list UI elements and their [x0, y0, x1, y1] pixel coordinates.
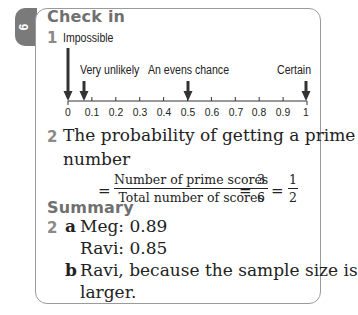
- tick-0-2: 0.2: [109, 106, 123, 118]
- ravi-result: Ravi: 0.85: [80, 238, 167, 258]
- part-b-line1: Ravi, because the sample size is: [80, 260, 358, 280]
- summary-heading: Summary: [47, 198, 134, 217]
- part-b-label: b: [65, 260, 77, 280]
- tick-0-8: 0.8: [252, 106, 266, 118]
- part-a-label: a: [65, 216, 76, 236]
- question-2-number: 2: [47, 128, 57, 146]
- tick-0-3: 0.3: [133, 106, 147, 118]
- fraction-1-over-2: 1 2: [288, 172, 298, 205]
- tick-0: 0: [65, 106, 71, 118]
- tick-0-1: 0.1: [85, 106, 99, 118]
- tick-0-6: 0.6: [205, 106, 219, 118]
- equals-sign-3: =: [271, 182, 284, 200]
- tick-0-5: 0.5: [181, 106, 195, 118]
- meg-result: Meg: 0.89: [80, 216, 167, 236]
- part-b-line2: larger.: [80, 282, 136, 302]
- tick-0-9: 0.9: [276, 106, 290, 118]
- q2-text-line2: number: [63, 149, 130, 169]
- tick-0-7: 0.7: [229, 106, 243, 118]
- summary-question-2-number: 2: [47, 219, 57, 237]
- tick-1: 1: [303, 106, 309, 118]
- equals-sign-2: =: [239, 182, 252, 200]
- q2-text-line1: The probability of getting a prime: [63, 125, 355, 145]
- tick-0-4: 0.4: [157, 106, 171, 118]
- fraction-3-over-6: 3 6: [256, 172, 266, 205]
